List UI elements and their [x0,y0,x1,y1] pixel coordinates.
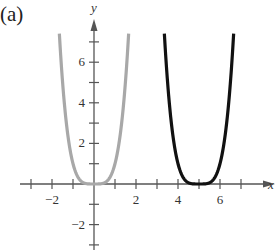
x-tick-label: 2 [133,192,140,207]
x-tick-label: 6 [217,192,224,207]
y-tick-label: −2 [71,217,85,232]
chart-plot: xy−2246−2246 [0,0,280,251]
y-tick-label: 6 [79,54,86,69]
y-axis-arrow-icon [91,19,98,31]
curve-x-minus-5-pow4 [164,34,233,184]
x-tick-label: 4 [175,192,182,207]
y-axis-label: y [89,0,97,15]
y-tick-label: 4 [79,95,86,110]
x-axis-label: x [267,177,274,192]
x-tick-label: −2 [45,192,59,207]
y-tick-label: 2 [79,135,86,150]
